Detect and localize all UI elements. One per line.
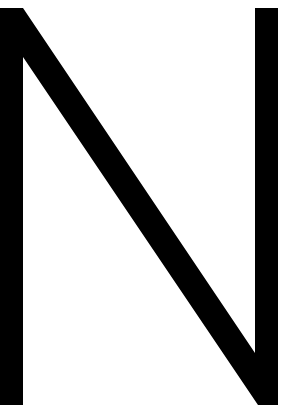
letter-n-shape bbox=[0, 8, 278, 405]
letter-n-glyph bbox=[0, 0, 294, 415]
